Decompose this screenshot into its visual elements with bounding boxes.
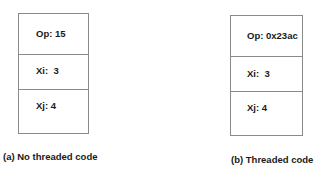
field-xj: Xj: 4	[19, 89, 88, 134]
field-xj-label: Xj: 4	[247, 102, 267, 113]
field-xi: Xi: 3	[19, 54, 88, 89]
caption-b: (b) Threaded code	[231, 154, 313, 165]
field-xj-label: Xj: 4	[36, 100, 56, 111]
instruction-record-box: Op: 0x23ac Xi: 3 Xj: 4	[230, 15, 303, 136]
instruction-record-box: Op: 15 Xi: 3 Xj: 4	[18, 13, 89, 134]
field-xi-label: Xi: 3	[247, 68, 270, 79]
field-xi: Xi: 3	[231, 56, 302, 91]
field-op: Op: 0x23ac	[231, 16, 302, 56]
field-op-label: Op: 0x23ac	[247, 30, 298, 41]
field-op: Op: 15	[19, 14, 88, 54]
field-xj: Xj: 4	[231, 91, 302, 136]
caption-a: (a) No threaded code	[3, 151, 98, 162]
field-op-label: Op: 15	[36, 28, 66, 39]
field-xi-label: Xi: 3	[36, 65, 59, 76]
